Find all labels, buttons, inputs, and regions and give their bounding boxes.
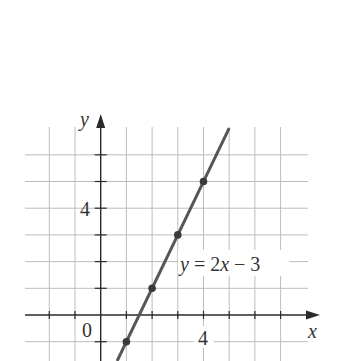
data-point xyxy=(123,338,131,346)
x-tick-label-4: 4 xyxy=(198,327,208,349)
line-chart: y x 4 0 y = 2x − 3 4 xyxy=(0,0,340,361)
equation-y: y xyxy=(178,253,189,276)
data-point xyxy=(174,231,182,239)
grid xyxy=(25,127,308,361)
x-axis-label: x xyxy=(307,320,317,342)
axes xyxy=(25,114,320,361)
equation-label: y = 2x − 3 xyxy=(178,253,260,276)
y-axis-arrow-icon xyxy=(96,114,105,128)
origin-label: 0 xyxy=(82,319,92,341)
y-axis-label: y xyxy=(78,108,89,131)
equation-x: x xyxy=(219,253,229,275)
equation-tail: − 3 xyxy=(229,253,260,275)
equation-mid: = 2 xyxy=(189,253,220,275)
data-point xyxy=(148,285,156,293)
ticks xyxy=(49,155,280,342)
x-axis-arrow-icon xyxy=(306,311,320,320)
data-point xyxy=(200,178,208,186)
y-tick-label-4: 4 xyxy=(80,198,90,220)
